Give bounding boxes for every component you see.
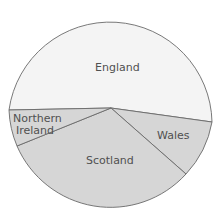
label-scotland: Scotland xyxy=(86,154,134,167)
label-northern-ireland-line2: Ireland xyxy=(16,124,54,137)
label-wales: Wales xyxy=(157,129,190,142)
label-england: England xyxy=(95,61,140,74)
pie-chart: England Wales Scotland Northern Ireland xyxy=(0,0,219,217)
